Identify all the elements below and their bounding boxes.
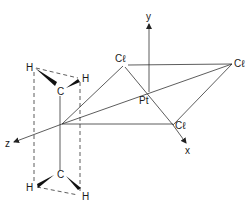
zeise-salt-diagram: y x z Pt Cℓ Cℓ Cℓ C C H H H H (0, 0, 246, 202)
label-x-axis: x (185, 145, 190, 156)
label-h-lower-right: H (82, 191, 89, 202)
edge-cl-top-cl-right (128, 64, 232, 65)
label-pt: Pt (139, 95, 149, 106)
wedge-lower-right (66, 176, 81, 190)
edge-cl-right-cl-bottom (173, 64, 232, 125)
label-cl-right: Cℓ (234, 58, 245, 69)
label-c-upper: C (57, 86, 64, 97)
label-h-upper-right: H (82, 73, 89, 84)
bond-origin-cl-top (62, 66, 123, 124)
z-axis (14, 124, 62, 142)
label-h-upper-left: H (26, 62, 33, 73)
label-z-axis: z (5, 138, 10, 149)
label-h-lower-left: H (26, 182, 33, 193)
label-cl-bottom: Cℓ (175, 120, 186, 131)
label-y-axis: y (146, 11, 151, 22)
wedge-upper-right (66, 79, 80, 88)
labels: y x z Pt Cℓ Cℓ Cℓ C C H H H H (5, 11, 245, 202)
label-c-lower: C (57, 169, 64, 180)
axes (14, 24, 186, 143)
wedge-lower-left (37, 175, 54, 188)
label-cl-top: Cℓ (115, 53, 126, 64)
dash-bottom-edge (37, 187, 78, 195)
